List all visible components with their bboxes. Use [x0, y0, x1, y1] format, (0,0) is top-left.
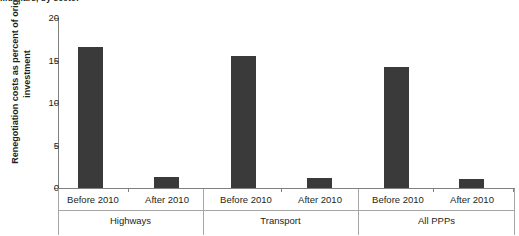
- bar-all-ppps-before-2010: [384, 67, 409, 188]
- bar-transport-before-2010: [231, 56, 256, 188]
- x-label-all-ppps-before-2010: Before 2010: [363, 194, 433, 205]
- group-label-all-ppps: All PPPs: [358, 215, 515, 226]
- x-tick-mark: [128, 188, 129, 192]
- y-tick-label: 5: [11, 140, 59, 151]
- x-label-highways-before-2010: Before 2010: [58, 194, 128, 205]
- group-row-divider: [58, 210, 515, 211]
- bar-highways-before-2010: [78, 47, 103, 188]
- group-label-transport: Transport: [203, 215, 358, 226]
- x-axis-line: [58, 188, 515, 189]
- group-separator: [358, 189, 359, 235]
- y-tick-10: 10: [0, 103, 59, 104]
- bar-highways-after-2010: [154, 177, 179, 188]
- x-label-highways-after-2010: After 2010: [132, 194, 202, 205]
- group-row-right-edge: [514, 189, 515, 235]
- y-tick-label: 15: [11, 55, 59, 66]
- bar-chart: Renegotiation costs as percent of origin…: [0, 0, 519, 236]
- x-label-transport-before-2010: Before 2010: [211, 194, 281, 205]
- x-label-all-ppps-after-2010: After 2010: [437, 194, 507, 205]
- y-tick-15: 15: [0, 61, 59, 62]
- y-tick-0: 0: [0, 188, 59, 189]
- group-row-left-edge: [58, 189, 59, 235]
- bar-transport-after-2010: [307, 178, 332, 188]
- x-tick-mark: [433, 188, 434, 192]
- bar-all-ppps-after-2010: [459, 179, 484, 188]
- y-tick-label: 0: [11, 182, 59, 193]
- y-tick-label: 20: [11, 12, 59, 23]
- x-label-transport-after-2010: After 2010: [285, 194, 355, 205]
- group-separator: [203, 189, 204, 235]
- y-tick-label: 10: [11, 97, 59, 108]
- y-tick-20: 20: [0, 18, 59, 19]
- y-tick-5: 5: [0, 146, 59, 147]
- x-tick-mark: [281, 188, 282, 192]
- group-label-highways: Highways: [58, 215, 203, 226]
